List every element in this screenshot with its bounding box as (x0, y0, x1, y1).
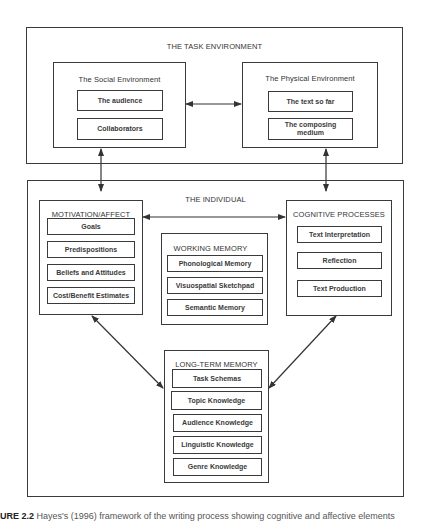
phonological-memory-item: Phonological Memory (167, 255, 263, 272)
semantic-memory-item: Semantic Memory (167, 299, 263, 316)
audience-knowledge-item: Audience Knowledge (173, 414, 262, 432)
beliefs-attitudes-item: Beliefs and Attitudes (47, 264, 135, 281)
task-schemas-item: Task Schemas (172, 369, 262, 388)
topic-knowledge-item: Topic Knowledge (171, 391, 262, 410)
text-production-item: Text Production (297, 280, 382, 297)
social-environment-title: The Social Environment (54, 75, 185, 84)
figure-caption: URE 2.2 Hayes's (1996) framework of the … (0, 511, 425, 525)
visuospatial-sketchpad-item: Visuospatial Sketchpad (167, 277, 263, 294)
working-memory-title: WORKING MEMORY (154, 244, 267, 253)
caption-text: Hayes's (1996) framework of the writing … (37, 511, 395, 521)
long-term-memory-title: LONG-TERM MEMORY (165, 360, 268, 369)
task-environment-title: THE TASK ENVIRONMENT (27, 42, 402, 51)
linguistic-knowledge-item: Linguistic Knowledge (173, 436, 262, 454)
goals-item: Goals (47, 218, 135, 235)
reflection-item: Reflection (297, 252, 382, 269)
composing-medium-item: The composing medium (268, 118, 353, 140)
caption-label: URE 2.2 (0, 511, 34, 521)
predispositions-item: Predispositions (47, 241, 135, 258)
cost-benefit-item: Cost/Benefit Estimates (47, 287, 135, 304)
text-so-far-item: The text so far (268, 91, 353, 112)
physical-environment-title: The Physical Environment (243, 74, 377, 83)
cognitive-processes-title: COGNITIVE PROCESSES (287, 210, 391, 219)
text-interpretation-item: Text Interpretation (297, 226, 382, 243)
collaborators-item: Collaborators (77, 118, 163, 140)
audience-item: The audience (77, 90, 163, 111)
genre-knowledge-item: Genre Knowledge (173, 458, 262, 476)
